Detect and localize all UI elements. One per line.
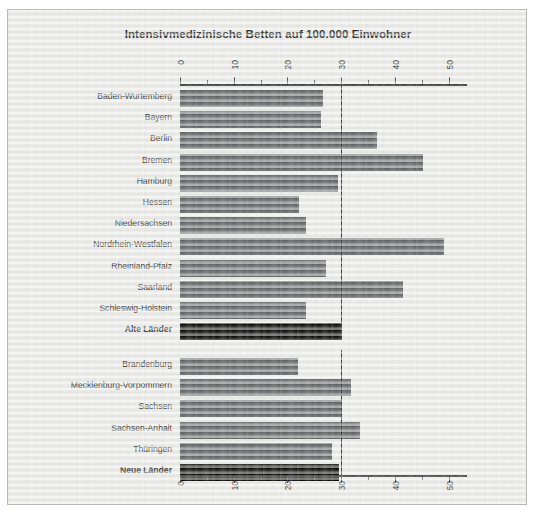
bar-row: Niedersachsen (8, 217, 527, 234)
bar-row: Sachsen-Anhalt (8, 422, 527, 439)
bar-row: Schleswig-Holstein (8, 302, 527, 319)
bar (180, 379, 351, 396)
bar-category-label: Rheinland-Pfalz (7, 261, 172, 271)
bar-category-label: Brandenburg (7, 359, 172, 369)
axis-tick-label: 30 (337, 60, 347, 69)
bar-category-label: Bayern (7, 112, 172, 122)
bar-row: Bremen (8, 154, 527, 171)
bar (180, 358, 298, 375)
bar-row: Hessen (8, 196, 527, 213)
axis-tick-minor (207, 476, 208, 480)
axis-tick-label: 20 (283, 60, 293, 69)
bar (180, 323, 341, 340)
axis-tick-minor (422, 80, 423, 84)
bar-category-label: Bremen (7, 155, 172, 165)
bar-row: Berlin (8, 132, 527, 149)
axis-tick-label: 50 (445, 481, 455, 490)
bar-category-label: Thüringen (7, 444, 172, 454)
bar-category-label: Sachsen-Anhalt (7, 423, 172, 433)
bar (180, 400, 341, 417)
axis-tick-label: 40 (391, 481, 401, 490)
axis-tick-major (180, 77, 181, 84)
bar-row: Brandenburg (8, 358, 527, 375)
axis-line (180, 84, 467, 86)
bar-category-label: Schleswig-Holstein (7, 303, 172, 313)
bar-category-label: Berlin (7, 133, 172, 143)
axis-tick-label: 50 (445, 60, 455, 69)
bar-row: Alte Länder (8, 323, 527, 340)
x-axis-top: 01020304050 (8, 64, 527, 104)
axis-tick-label: 10 (230, 481, 240, 490)
axis-tick-minor (368, 476, 369, 480)
bar (180, 175, 338, 192)
axis-line (180, 475, 467, 477)
bar (180, 238, 444, 255)
bar (180, 217, 306, 234)
bar-category-label: Alte Länder (7, 324, 172, 334)
bar (180, 196, 299, 213)
bar (180, 111, 321, 128)
bar-row: Saarland (8, 281, 527, 298)
bar-category-label: Niedersachsen (7, 218, 172, 228)
axis-tick-major (341, 77, 342, 84)
bar-category-label: Mecklenburg-Vorpommern (7, 380, 172, 390)
axis-tick-label: 0 (176, 60, 186, 65)
axis-tick-minor (207, 80, 208, 84)
axis-tick-label: 30 (337, 481, 347, 490)
bar-row: Sachsen (8, 400, 527, 417)
bar-row: Hamburg (8, 175, 527, 192)
axis-tick-major (395, 77, 396, 84)
bar-row: Nordrhein-Westfalen (8, 238, 527, 255)
bar-row: Rheinland-Pfalz (8, 260, 527, 277)
bar (180, 281, 403, 298)
bar-category-label: Hamburg (7, 176, 172, 186)
axis-tick-label: 20 (283, 481, 293, 490)
axis-tick-minor (261, 476, 262, 480)
bar (180, 422, 360, 439)
axis-tick-label: 40 (391, 60, 401, 69)
reference-line-lower-group (341, 350, 342, 475)
chart-title: Intensivmedizinische Betten auf 100.000 … (8, 28, 527, 40)
axis-tick-minor (422, 476, 423, 480)
x-axis-bottom: 01020304050 (8, 455, 527, 495)
axis-tick-major (449, 77, 450, 84)
bar-category-label: Saarland (7, 282, 172, 292)
bar (180, 302, 306, 319)
axis-tick-minor (368, 80, 369, 84)
axis-tick-major (234, 77, 235, 84)
bar-category-label: Nordrhein-Westfalen (7, 239, 172, 249)
chart-figure: Intensivmedizinische Betten auf 100.000 … (7, 9, 527, 505)
axis-tick-major (287, 77, 288, 84)
bar (180, 132, 377, 149)
bar (180, 260, 326, 277)
bar-row: Mecklenburg-Vorpommern (8, 379, 527, 396)
axis-tick-minor (261, 80, 262, 84)
bar-category-label: Sachsen (7, 401, 172, 411)
axis-tick-label: 10 (230, 60, 240, 69)
bar (180, 154, 423, 171)
bar-category-label: Hessen (7, 197, 172, 207)
reference-line-upper-group (341, 85, 342, 340)
axis-tick-minor (314, 80, 315, 84)
axis-tick-minor (314, 476, 315, 480)
bar-row: Bayern (8, 111, 527, 128)
axis-tick-label: 0 (176, 481, 186, 486)
